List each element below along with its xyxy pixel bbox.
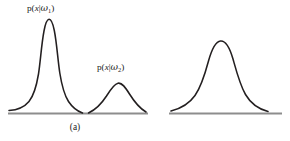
label-paren-open: p(: [97, 62, 105, 72]
panel-a-label-omega2: p(x|ω2): [97, 62, 124, 72]
panel-b-curve-shared: [171, 41, 268, 112]
panel-a-caption: (a): [0, 123, 150, 132]
panel-a-label-omega1: p(x|ω1): [27, 3, 54, 13]
label-class-index: 2: [118, 66, 121, 73]
label-paren-close: ): [51, 3, 54, 13]
panel-b-plot: [150, 0, 290, 141]
panel-a-curve-omega1: [9, 19, 83, 113]
label-class-index: 1: [48, 7, 51, 14]
figure-container: p(x|ω1) p(x|ω2) (a) p(x|ω1) = p(x|ω2) (b…: [0, 0, 290, 141]
panel-b: p(x|ω1) = p(x|ω2) (b): [150, 0, 290, 141]
panel-a: p(x|ω1) p(x|ω2) (a): [0, 0, 150, 141]
panel-a-curve-omega2: [89, 83, 147, 113]
label-paren-close: ): [121, 62, 124, 72]
label-omega-symbol: ω: [41, 2, 49, 13]
panel-a-plot: [0, 0, 150, 141]
label-paren-open: p(: [27, 3, 35, 13]
label-omega-symbol: ω: [111, 61, 119, 72]
